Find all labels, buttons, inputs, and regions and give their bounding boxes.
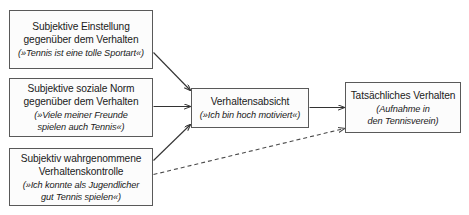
node-perceived-behavioral-control[interactable]: Subjektiv wahrgenommene Verhaltenskontro… bbox=[9, 148, 153, 206]
node-title-line1: Subjektive soziale Norm bbox=[28, 82, 135, 95]
node-behavioral-intention[interactable]: Verhaltensabsicht (»Ich bin hoch motivie… bbox=[191, 88, 309, 128]
edge-control-to-intention bbox=[154, 125, 191, 161]
node-example-line1: (»Ich konnte als Jugendlicher bbox=[23, 179, 140, 191]
node-example-line2: spielen auch Tennis«) bbox=[38, 121, 125, 133]
node-title-line1: Subjektive Einstellung bbox=[32, 20, 129, 33]
node-example-line1: (»Ich bin hoch motiviert«) bbox=[200, 109, 301, 121]
node-title-line2: gegenüber dem Verhalten bbox=[24, 33, 139, 46]
node-subjective-attitude[interactable]: Subjektive Einstellung gegenüber dem Ver… bbox=[9, 10, 153, 69]
node-example-line1: (»Viele meiner Freunde bbox=[34, 109, 128, 121]
node-title-line1: Tatsächliches Verhalten bbox=[351, 89, 456, 102]
edge-attitude-to-intention bbox=[154, 53, 191, 91]
diagram-canvas: Subjektive Einstellung gegenüber dem Ver… bbox=[0, 0, 469, 215]
node-example-line2: den Tennisverein) bbox=[368, 115, 439, 127]
node-title-line2: Verhaltenskontrolle bbox=[39, 165, 124, 178]
node-subjective-social-norm[interactable]: Subjektive soziale Norm gegenüber dem Ve… bbox=[9, 78, 153, 137]
node-example-line1: (Aufnahme in bbox=[376, 103, 429, 115]
node-title-line1: Verhaltensabsicht bbox=[211, 95, 290, 108]
node-title-line1: Subjektiv wahrgenommene bbox=[21, 152, 142, 165]
node-example-line1: (»Tennis ist eine tolle Sportart«) bbox=[18, 47, 144, 59]
edge-control-to-behavior bbox=[154, 129, 345, 175]
node-title-line2: gegenüber dem Verhalten bbox=[24, 95, 139, 108]
node-example-line2: gut Tennis spielen«) bbox=[41, 191, 121, 203]
node-actual-behavior[interactable]: Tatsächliches Verhalten (Aufnahme in den… bbox=[345, 82, 461, 133]
